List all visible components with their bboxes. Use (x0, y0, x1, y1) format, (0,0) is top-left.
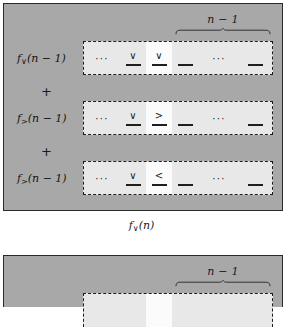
cell-1-2-rule (152, 124, 167, 125)
brace-group-upper: n − 1 (175, 14, 271, 35)
caption-upper: f∨(n) (0, 219, 283, 235)
cell-1-1: ∨ (120, 102, 146, 134)
operator-plus-0: + (41, 85, 52, 98)
cell-0-2-glyph: ∨ (155, 50, 162, 61)
cell-0-5 (240, 42, 270, 74)
cell-2-0-glyph: ··· (95, 173, 109, 184)
cell-1-2: > (146, 102, 172, 134)
cell-l0-5 (240, 294, 270, 327)
brace-label-upper: n − 1 (175, 14, 271, 26)
cell-1-1-rule (126, 124, 141, 125)
sequence-box-lower-0 (83, 293, 273, 327)
cell-l0-0 (84, 294, 120, 327)
overbrace-upper (175, 28, 271, 35)
cell-2-0: ··· (84, 162, 120, 194)
cell-1-3 (172, 102, 198, 134)
sequence-box-0: ··· ∨ ∨ ··· (83, 41, 273, 75)
brace-group-lower: n − 1 (175, 266, 271, 287)
cell-1-4: ··· (198, 102, 240, 134)
cell-2-4-glyph: ··· (212, 173, 226, 184)
cell-0-2-rule (152, 64, 167, 65)
cell-0-1-glyph: ∨ (129, 50, 136, 61)
cell-0-4-glyph: ··· (212, 53, 226, 64)
cell-2-3 (172, 162, 198, 194)
cell-0-4: ··· (198, 42, 240, 74)
row-label-1-arg: (n − 1) (28, 112, 67, 125)
sequence-box-1: ··· ∨ > ··· (83, 101, 273, 135)
cell-l0-4 (198, 294, 240, 327)
cell-1-0-glyph: ··· (95, 113, 109, 124)
cell-1-5-rule (248, 124, 263, 125)
cell-0-2: ∨ (146, 42, 172, 74)
cell-0-0-glyph: ··· (95, 53, 109, 64)
cell-1-0: ··· (84, 102, 120, 134)
cell-2-4: ··· (198, 162, 240, 194)
row-label-1-sub: > (21, 117, 28, 126)
cell-0-3-rule (178, 64, 193, 65)
cell-l0-1 (120, 294, 146, 327)
overbrace-lower (175, 280, 271, 287)
cell-0-1: ∨ (120, 42, 146, 74)
cell-1-2-glyph: > (155, 110, 163, 121)
cell-1-1-glyph: ∨ (129, 110, 136, 121)
caption-upper-arg: (n) (139, 219, 155, 232)
cell-0-1-rule (126, 64, 141, 65)
cell-2-2-rule (152, 184, 167, 185)
brace-label-lower: n − 1 (175, 266, 271, 278)
cell-2-2: < (146, 162, 172, 194)
cell-2-3-rule (178, 184, 193, 185)
row-label-2-sub: > (21, 177, 28, 186)
cell-0-0: ··· (84, 42, 120, 74)
operator-plus-1: + (41, 145, 52, 158)
cell-2-5 (240, 162, 270, 194)
cell-2-1-glyph: ∨ (129, 170, 136, 181)
cell-0-5-rule (248, 64, 263, 65)
cell-l0-3 (172, 294, 198, 327)
cell-2-1-rule (126, 184, 141, 185)
sequence-box-2: ··· ∨ < ··· (83, 161, 273, 195)
row-label-0-arg: (n − 1) (27, 52, 66, 65)
cell-l0-2 (146, 294, 172, 327)
row-label-2-arg: (n − 1) (28, 172, 67, 185)
cell-2-5-rule (248, 184, 263, 185)
row-label-1: f>(n − 1) (17, 112, 67, 128)
cell-0-3 (172, 42, 198, 74)
cell-1-3-rule (178, 124, 193, 125)
row-label-2: f>(n − 1) (17, 172, 67, 188)
cell-2-2-glyph: < (155, 170, 163, 181)
cell-1-4-glyph: ··· (212, 113, 226, 124)
cell-2-1: ∨ (120, 162, 146, 194)
cell-1-5 (240, 102, 270, 134)
row-label-0: f∨(n − 1) (17, 52, 66, 68)
